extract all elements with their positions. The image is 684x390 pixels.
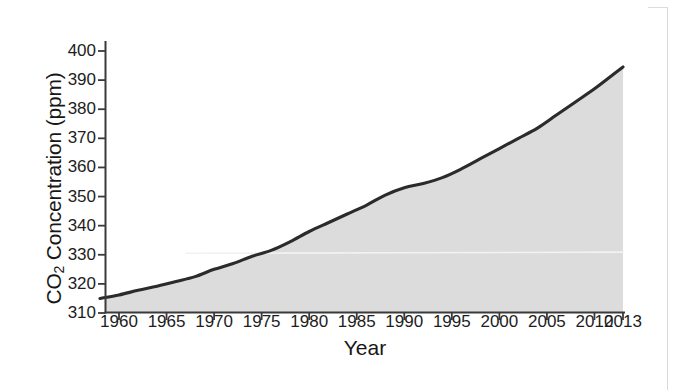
x-tick-label: 1970: [195, 312, 233, 331]
x-tick-label: 1985: [338, 312, 376, 331]
area-series-co2: [100, 67, 623, 312]
x-tick-label-group: 1960196519701975198019851990199520002005…: [0, 312, 684, 336]
x-tick-label: 1960: [100, 312, 138, 331]
x-tick-label: 1965: [148, 312, 186, 331]
x-axis-title: Year: [105, 336, 625, 360]
x-tick-label: 1995: [433, 312, 471, 331]
x-tick-label: 2000: [480, 312, 518, 331]
x-tick-label: 2005: [528, 312, 566, 331]
page-edge-line: [667, 7, 668, 390]
page-edge-corner: [648, 7, 668, 8]
x-tick-label: 1990: [385, 312, 423, 331]
x-tick-label: 1980: [290, 312, 328, 331]
x-tick-label: 2013: [604, 312, 642, 331]
y-tick-marks: [98, 51, 105, 313]
x-tick-label: 1975: [243, 312, 281, 331]
chart-figure: CO2 Concentration (ppm) 3103203303403503…: [0, 0, 684, 390]
